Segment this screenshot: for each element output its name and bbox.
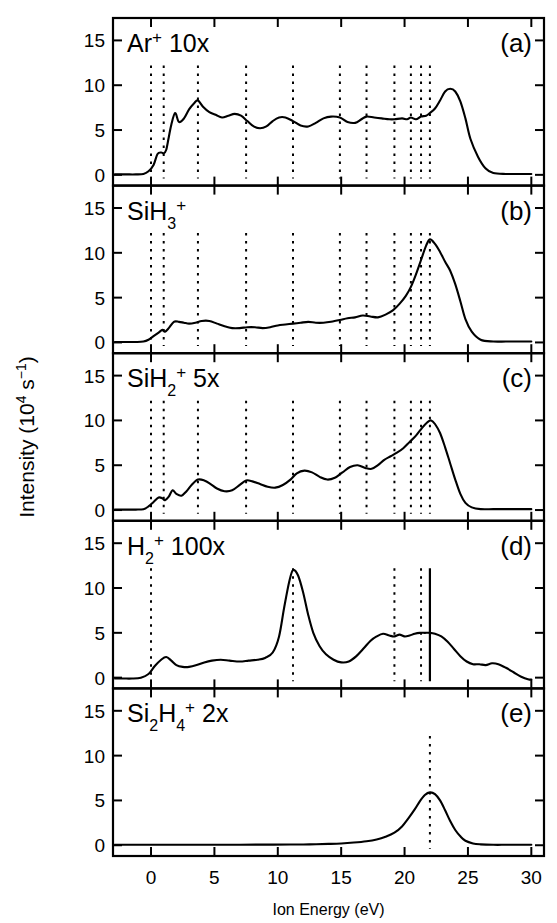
x-tick-label: 30 [521,867,542,888]
svg-text:Intensity (104 s−1): Intensity (104 s−1) [13,356,38,518]
y-tick-label: 5 [94,288,105,309]
y-tick-label: 0 [94,500,105,521]
x-tick-label: 15 [331,867,352,888]
panel-letter-d: (d) [500,531,532,561]
y-tick-label: 10 [84,410,105,431]
panel-frame [113,688,544,856]
y-tick-label: 10 [84,243,105,264]
spectrum-curve [113,792,531,844]
y-tick-label: 10 [84,746,105,767]
species-label: SiH2+ 5x [127,363,220,399]
y-tick-label: 5 [94,120,105,141]
spectrum-curve [113,570,531,680]
panel-c: 051015SiH2+ 5x(c) [84,353,544,521]
panel-e: 051015Si2H4+ 2x(e) [84,688,544,856]
panel-b: 051015SiH3+(b) [84,186,544,354]
x-tick-label: 0 [146,867,157,888]
panel-d: 051015H2+ 100x(d) [84,521,544,689]
species-label: Si2H4+ 2x [127,698,229,734]
x-axis-label: Ion Energy (eV) [272,901,384,918]
x-tick-label: 5 [209,867,220,888]
y-tick-label: 0 [94,668,105,689]
x-tick-label: 10 [267,867,288,888]
y-tick-label: 5 [94,455,105,476]
spectrum-curve [113,420,531,509]
panel-letter-e: (e) [500,698,532,728]
panel-a: 051015Ar+ 10x(a) [84,18,544,186]
panel-letter-c: (c) [502,363,532,393]
y-tick-label: 0 [94,332,105,353]
spectrum-curve [113,239,531,342]
panel-letter-b: (b) [500,196,532,226]
y-tick-label: 0 [94,835,105,856]
y-axis-label: Intensity (104 s−1) [13,356,38,518]
y-tick-label: 15 [84,701,105,722]
y-tick-label: 5 [94,623,105,644]
y-tick-label: 10 [84,75,105,96]
y-tick-label: 15 [84,30,105,51]
y-tick-label: 15 [84,198,105,219]
figure-container: Intensity (104 s−1)Ion Energy (eV)051015… [0,0,557,923]
y-tick-label: 15 [84,533,105,554]
y-tick-label: 0 [94,165,105,186]
ion-energy-figure: Intensity (104 s−1)Ion Energy (eV)051015… [0,0,557,923]
panel-letter-a: (a) [500,28,532,58]
species-label: Ar+ 10x [127,28,210,58]
species-label: H2+ 100x [127,530,226,566]
species-label: SiH3+ [127,195,186,231]
x-tick-label: 20 [394,867,415,888]
x-tick-label: 25 [457,867,478,888]
y-tick-label: 5 [94,790,105,811]
y-tick-label: 10 [84,578,105,599]
spectrum-curve [113,89,531,175]
y-tick-label: 15 [84,366,105,387]
